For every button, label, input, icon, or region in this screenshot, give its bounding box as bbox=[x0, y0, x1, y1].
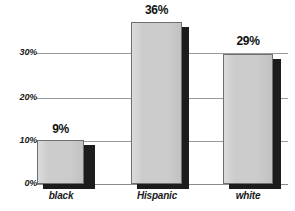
plot-area: 30% 20% 10% 0% 9% black 36% Hispanic 29%… bbox=[0, 0, 295, 211]
bar-group-black bbox=[37, 139, 90, 184]
bar-black bbox=[37, 140, 84, 184]
bar-group-hispanic bbox=[131, 21, 188, 184]
bar-value-black: 9% bbox=[37, 123, 84, 135]
y-axis-tick-20: 20% bbox=[3, 93, 37, 102]
category-label-hispanic: Hispanic bbox=[122, 190, 192, 201]
y-axis-tick-0: 0% bbox=[3, 179, 37, 188]
bar-group-white bbox=[223, 53, 280, 184]
y-axis-tick-30: 30% bbox=[3, 48, 37, 57]
y-axis-tick-10: 10% bbox=[3, 136, 37, 145]
category-label-white: white bbox=[216, 190, 280, 201]
bar-white bbox=[223, 54, 273, 184]
bar-hispanic bbox=[131, 22, 182, 184]
category-label-black: black bbox=[30, 190, 92, 201]
bar-value-white: 29% bbox=[223, 35, 273, 47]
bar-value-hispanic: 36% bbox=[131, 4, 182, 16]
bar-chart: 30% 20% 10% 0% 9% black 36% Hispanic 29%… bbox=[0, 0, 295, 211]
